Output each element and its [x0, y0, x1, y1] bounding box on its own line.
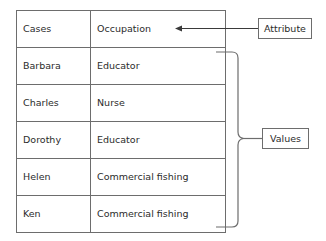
attribute-callout-label: Attribute: [264, 23, 306, 34]
table-row: Ken Commercial fishing: [17, 196, 226, 233]
table-row: Charles Nurse: [17, 85, 226, 122]
diagram-canvas: Cases Occupation Barbara Educator Charle…: [0, 0, 326, 241]
cell-case-name: Helen: [17, 159, 91, 196]
values-callout-box: Values: [262, 128, 309, 149]
values-callout-label: Values: [270, 133, 301, 144]
table-row: Barbara Educator: [17, 48, 226, 85]
cell-case-name: Charles: [17, 85, 91, 122]
cell-case-name: Dorothy: [17, 122, 91, 159]
cell-occupation-value: Educator: [91, 48, 226, 85]
table-header-row: Cases Occupation: [17, 11, 226, 48]
table-row: Helen Commercial fishing: [17, 159, 226, 196]
cell-occupation-value: Commercial fishing: [91, 159, 226, 196]
cell-occupation-value: Educator: [91, 122, 226, 159]
table-row: Dorothy Educator: [17, 122, 226, 159]
cell-case-name: Barbara: [17, 48, 91, 85]
cases-attribute-table: Cases Occupation Barbara Educator Charle…: [16, 10, 226, 233]
table-body: Cases Occupation Barbara Educator Charle…: [17, 11, 226, 233]
cell-case-name: Ken: [17, 196, 91, 233]
cell-occupation-value: Commercial fishing: [91, 196, 226, 233]
attribute-callout-box: Attribute: [258, 18, 312, 39]
header-cell-occupation: Occupation: [91, 11, 226, 48]
cell-occupation-value: Nurse: [91, 85, 226, 122]
header-cell-cases: Cases: [17, 11, 91, 48]
